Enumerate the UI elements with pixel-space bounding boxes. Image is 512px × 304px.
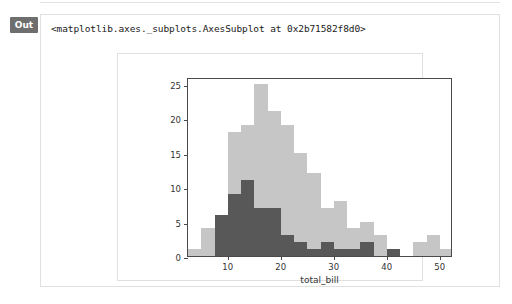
histogram-bar — [374, 235, 387, 256]
y-tick-label: 0 — [176, 253, 181, 263]
histogram-bar — [201, 228, 214, 256]
histogram-bar — [188, 249, 201, 256]
y-tick-mark — [184, 155, 188, 156]
repr-text: <matplotlib.axes._subplots.AxesSubplot a… — [51, 23, 366, 34]
x-tick-label: 20 — [275, 262, 286, 272]
histogram-bar — [347, 249, 360, 256]
y-tick-label: 25 — [170, 81, 181, 91]
histogram-bar — [307, 173, 320, 256]
x-tick-label: 40 — [381, 262, 392, 272]
x-tick-label: 10 — [222, 262, 233, 272]
histogram-bar — [413, 242, 426, 256]
y-tick-label: 20 — [170, 115, 181, 125]
histogram-bar — [268, 208, 281, 256]
x-tick-mark — [440, 256, 441, 260]
histogram-bar — [254, 208, 267, 256]
x-axis-label: total_bill — [300, 275, 338, 285]
y-tick-mark — [184, 258, 188, 259]
histogram-bar — [360, 242, 373, 256]
x-tick-label: 50 — [434, 262, 445, 272]
histogram-bar — [294, 153, 307, 256]
histogram-bar — [321, 242, 334, 256]
x-tick-mark — [228, 256, 229, 260]
y-tick-label: 10 — [170, 184, 181, 194]
histogram-bar — [387, 249, 400, 256]
y-tick-mark — [184, 189, 188, 190]
y-tick-mark — [184, 120, 188, 121]
y-tick-mark — [184, 224, 188, 225]
histogram-bar — [241, 180, 254, 256]
histogram-bar — [281, 235, 294, 256]
histogram-bar — [215, 215, 228, 256]
y-tick-label: 5 — [176, 219, 181, 229]
histogram-bar — [228, 194, 241, 256]
y-tick-label: 15 — [170, 150, 181, 160]
x-tick-mark — [281, 256, 282, 260]
histogram-bar — [334, 249, 347, 256]
x-tick-mark — [334, 256, 335, 260]
histogram-bar — [440, 249, 451, 256]
cell-divider — [40, 2, 500, 3]
plot-area — [188, 79, 451, 256]
histogram-bar — [427, 235, 440, 256]
plot-axes: 0510152025 1020304050 total_bill — [187, 78, 452, 257]
matplotlib-figure[interactable]: 0510152025 1020304050 total_bill — [117, 53, 423, 281]
out-prompt-badge: Out — [10, 17, 38, 33]
x-tick-label: 30 — [328, 262, 339, 272]
x-tick-mark — [387, 256, 388, 260]
histogram-bar — [307, 249, 320, 256]
y-tick-mark — [184, 86, 188, 87]
output-panel: <matplotlib.axes._subplots.AxesSubplot a… — [40, 14, 500, 287]
histogram-bar — [334, 201, 347, 256]
histogram-bar — [294, 242, 307, 256]
